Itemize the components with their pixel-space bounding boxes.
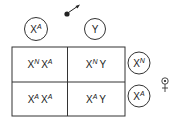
male-gamete-2: Y [85,19,106,40]
cell-r1c2: XNY [86,58,107,70]
svg-text:XN: XN [133,57,146,69]
male-symbol-icon [64,5,80,17]
cell-r2c1: XAXA [28,93,53,105]
svg-text:XAXA: XAXA [28,93,53,105]
female-gamete-1: XN [128,52,150,74]
cell-r1c1: XNXA [27,58,52,70]
svg-text:XNXA: XNXA [27,58,52,70]
svg-text:XA: XA [30,23,42,35]
punnett-square-diagram: XA Y XNXA XNY XAXA XAY XN XA [0,0,180,125]
svg-text:XNY: XNY [86,58,107,70]
punnett-grid [12,47,125,116]
svg-text:Y: Y [92,24,99,35]
svg-text:XA: XA [133,90,145,102]
female-gamete-2: XA [128,85,150,107]
male-gamete-1: XA [25,18,48,41]
cell-r2c2: XAY [86,93,106,105]
female-symbol-icon [162,78,168,92]
svg-text:XAY: XAY [86,93,106,105]
